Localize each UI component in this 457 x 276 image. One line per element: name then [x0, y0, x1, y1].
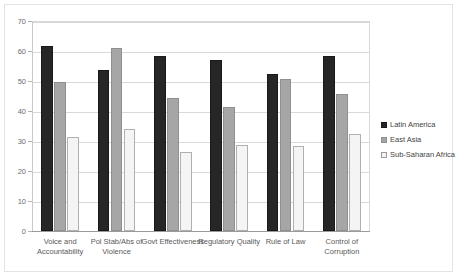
bar-group	[314, 21, 370, 231]
legend-swatch-icon	[381, 137, 387, 143]
bar	[210, 60, 222, 231]
chart-legend: Latin America East Asia Sub-Saharan Afri…	[381, 120, 453, 165]
bar	[111, 48, 123, 231]
bar	[98, 70, 110, 231]
y-axis-tick-label: 10	[0, 197, 26, 206]
bar-chart: 010203040506070 Voice and Accountability…	[0, 0, 457, 276]
y-axis-tick-label: 0	[0, 227, 26, 236]
bar-group	[201, 21, 257, 231]
y-axis-tick-label: 40	[0, 107, 26, 116]
bar-group	[257, 21, 313, 231]
bar	[223, 107, 235, 231]
bar	[293, 146, 305, 231]
y-axis-tick-label: 20	[0, 167, 26, 176]
bar	[67, 137, 79, 231]
legend-label: Latin America	[390, 120, 435, 129]
legend-item-east-asia: East Asia	[381, 135, 453, 144]
legend-label: East Asia	[390, 135, 421, 144]
bar	[336, 94, 348, 231]
legend-item-sub-saharan-africa: Sub-Saharan Africa	[381, 150, 453, 159]
bar	[54, 82, 66, 231]
bar	[180, 152, 192, 232]
bar	[280, 79, 292, 231]
legend-item-latin-america: Latin America	[381, 120, 453, 129]
bar-group	[88, 21, 144, 231]
bar	[236, 145, 248, 231]
bar	[349, 134, 361, 231]
bar	[41, 46, 53, 231]
bar-group	[32, 21, 88, 231]
bar	[154, 56, 166, 231]
legend-swatch-icon	[381, 152, 387, 158]
y-axis-tick-label: 60	[0, 47, 26, 56]
bar	[124, 129, 136, 231]
y-axis-tick-label: 70	[0, 17, 26, 26]
x-axis-category-label: Control of Corruption	[308, 237, 376, 257]
y-axis-tick-label: 50	[0, 77, 26, 86]
legend-swatch-icon	[381, 122, 387, 128]
bar	[267, 74, 279, 232]
bar	[323, 56, 335, 232]
bar-group	[145, 21, 201, 231]
bar-groups	[32, 21, 370, 231]
bar	[167, 98, 179, 231]
y-axis-tick-label: 30	[0, 137, 26, 146]
legend-label: Sub-Saharan Africa	[390, 150, 455, 159]
x-axis-baseline	[32, 231, 370, 232]
